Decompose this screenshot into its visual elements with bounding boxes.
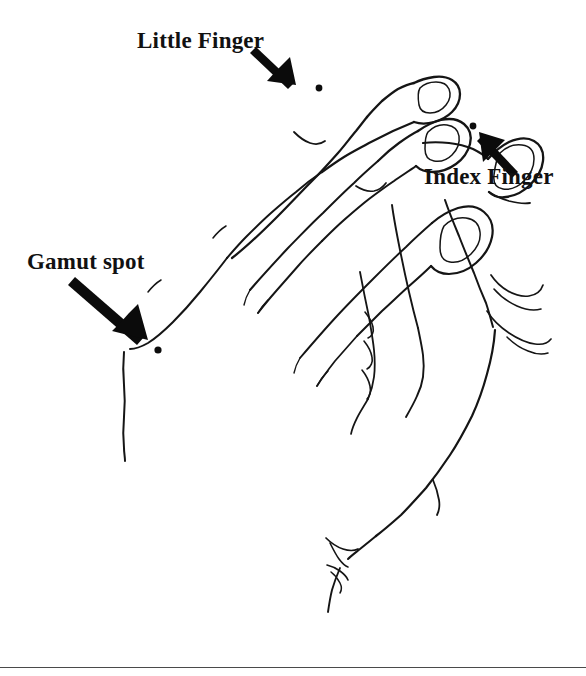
wrist-edge — [348, 536, 376, 559]
thumb-web-bump-2 — [364, 341, 372, 369]
index-finger-knuckle-fold-lower — [494, 289, 541, 310]
thumb-inner-edge-lower — [406, 328, 424, 417]
middle-finger-base-tick — [294, 358, 300, 373]
little-fingernail — [418, 82, 450, 113]
thumb-joint-crease — [433, 480, 439, 515]
thumb-inner-edge-upper — [392, 205, 418, 328]
thumb-web-bump-3 — [362, 370, 370, 399]
label-little-finger: Little Finger — [137, 29, 264, 52]
label-gamut-spot: Gamut spot — [27, 250, 145, 273]
hand-left-outer-edge — [123, 352, 125, 461]
arrow-gamut-spot — [68, 277, 148, 345]
thumb-web-edge-lower — [351, 399, 368, 434]
hand-diagram-figure: Little Finger Index Finger Gamut spot — [0, 0, 586, 676]
spot-gamut — [154, 346, 161, 353]
palm-stray-line-2 — [213, 226, 226, 238]
ring-finger-base-tick — [244, 290, 250, 305]
middle-finger-lower-edge-distal — [357, 266, 431, 336]
palm-stray-line — [148, 280, 161, 292]
spot-index-finger — [470, 123, 477, 130]
middle-finger-lower-edge — [317, 336, 357, 386]
index-finger-fold-bottom — [487, 311, 551, 344]
arrow-little-finger — [250, 47, 296, 89]
little-finger-knuckle-crease — [294, 132, 325, 144]
little-finger-lower-edge-distal — [322, 122, 414, 172]
label-index-finger: Index Finger — [424, 165, 554, 188]
spot-little-finger — [316, 85, 323, 92]
ring-finger-lower-edge-distal — [322, 166, 416, 241]
ring-finger-tip-tick — [258, 300, 268, 313]
hand-outer-lower-right-edge — [376, 330, 495, 536]
ring-finger-lower-edge — [258, 241, 322, 313]
little-finger-upper-edge-distal — [367, 83, 414, 117]
index-finger-fold-bottom-2 — [507, 337, 548, 354]
little-fingertip — [414, 77, 460, 124]
index-finger-knuckle-fold-upper — [489, 192, 530, 203]
hand-drawing-canvas — [0, 0, 586, 676]
